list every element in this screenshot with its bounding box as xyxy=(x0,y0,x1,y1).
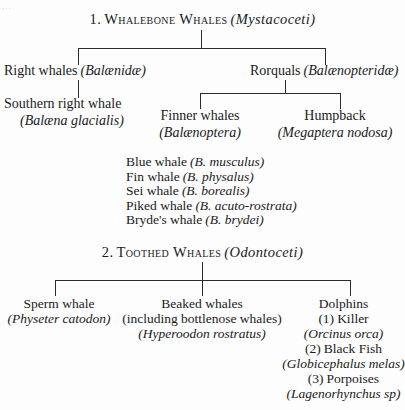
southern-right-whale-name: Southern right whale xyxy=(4,96,124,113)
connector-rorquals-stem xyxy=(285,80,286,94)
connector-root2-stem xyxy=(202,262,203,281)
node-sperm-whale: Sperm whale (Physeter catodon) xyxy=(0,296,118,326)
toothed-sci: (Odontoceti) xyxy=(224,244,303,260)
right-whales-name: Right whales xyxy=(4,63,78,78)
humpback-name: Humpback xyxy=(265,108,405,125)
dolphin-sci: (Orcinus orca) xyxy=(282,326,405,341)
beaked-whales-name: Beaked whales xyxy=(112,296,292,311)
whalebone-name: Whalebone Whales xyxy=(104,11,227,27)
dolphin-common: Porpoises xyxy=(327,371,380,386)
dolphins-name: Dolphins xyxy=(282,296,405,311)
species-sci: (B. brydei) xyxy=(205,212,263,227)
species-common: Fin whale xyxy=(126,169,180,184)
connector-beaked-drop xyxy=(202,280,203,296)
connector-rorquals-bar xyxy=(200,93,340,94)
dolphin-item: (2)Black Fish xyxy=(282,341,405,356)
node-whalebone-whales: 1.Whalebone Whales(Mystacoceti) xyxy=(0,11,405,28)
connector-root2-bar xyxy=(55,280,351,281)
species-sci: (B. acuto-rostrata) xyxy=(195,198,297,213)
node-rorquals: Rorquals(Balænopteridæ) xyxy=(250,63,398,80)
node-southern-right-whale: Southern right whale (Balæna glacialis) xyxy=(4,96,124,129)
node-right-whales: Right whales(Balænidæ) xyxy=(4,63,146,80)
whale-classification-diagram: ... 1.Whalebone Whales(Mystacoceti) Righ… xyxy=(0,0,405,410)
species-common: Sei whale xyxy=(126,183,179,198)
dolphin-num: (2) xyxy=(305,341,321,356)
connector-root1-bar xyxy=(78,48,326,49)
beaked-whales-note: (including bottlenose whales) xyxy=(112,311,292,326)
dolphin-item: (3)Porpoises xyxy=(282,371,405,386)
humpback-sci: (Megaptera nodosa) xyxy=(265,125,405,142)
species-sci: (B. physalus) xyxy=(183,169,254,184)
node-dolphins: Dolphins (1)Killer (Orcinus orca) (2)Bla… xyxy=(282,296,405,401)
dolphin-num: (3) xyxy=(308,371,324,386)
rorquals-name: Rorquals xyxy=(250,63,301,78)
species-sci: (B. borealis) xyxy=(182,183,250,198)
right-whales-sci: (Balænidæ) xyxy=(81,63,146,78)
species-list: Blue whale(B. musculus) Fin whale(B. phy… xyxy=(126,155,297,228)
species-row: Sei whale(B. borealis) xyxy=(126,184,297,199)
node-beaked-whales: Beaked whales (including bottlenose whal… xyxy=(112,296,292,341)
whalebone-sci: (Mystacoceti) xyxy=(231,11,316,27)
beaked-whales-sci: (Hyperoodon rostratus) xyxy=(112,326,292,341)
dolphin-sci: (Globicephalus melas) xyxy=(282,356,405,371)
sperm-whale-sci: (Physeter catodon) xyxy=(0,311,118,326)
connector-humpback-drop xyxy=(340,93,341,109)
dolphin-common: Black Fish xyxy=(324,341,382,356)
species-common: Blue whale xyxy=(126,154,187,169)
toothed-name: Toothed Whales xyxy=(116,244,221,260)
species-row: Bryde's whale(B. brydei) xyxy=(126,213,297,228)
connector-finner-drop xyxy=(200,93,201,109)
finner-whales-sci: (Balænoptera) xyxy=(140,125,260,142)
toothed-number: 2. xyxy=(102,244,114,260)
dolphin-sci: (Lagenorhynchus sp) xyxy=(282,386,405,401)
species-sci: (B. musculus) xyxy=(190,154,264,169)
species-common: Bryde's whale xyxy=(126,212,202,227)
scan-artifact-text: ... xyxy=(2,1,12,11)
species-row: Fin whale(B. physalus) xyxy=(126,170,297,185)
dolphin-common: Killer xyxy=(337,311,369,326)
finner-whales-name: Finner whales xyxy=(140,108,260,125)
southern-right-whale-sci: (Balæna glacialis) xyxy=(4,113,124,130)
species-common: Piked whale xyxy=(126,198,192,213)
whalebone-number: 1. xyxy=(90,11,102,27)
connector-root1-stem xyxy=(201,30,202,49)
species-row: Piked whale(B. acuto-rostrata) xyxy=(126,199,297,214)
connector-sperm-drop xyxy=(55,280,56,296)
node-toothed-whales: 2.Toothed Whales(Odontoceti) xyxy=(0,244,405,261)
node-humpback: Humpback (Megaptera nodosa) xyxy=(265,108,405,141)
connector-dolphins-drop xyxy=(350,280,351,296)
rorquals-sci: (Balænopteridæ) xyxy=(304,63,399,78)
node-finner-whales: Finner whales (Balænoptera) xyxy=(140,108,260,141)
sperm-whale-name: Sperm whale xyxy=(0,296,118,311)
dolphin-item: (1)Killer xyxy=(282,311,405,326)
dolphin-num: (1) xyxy=(318,311,334,326)
species-row: Blue whale(B. musculus) xyxy=(126,155,297,170)
